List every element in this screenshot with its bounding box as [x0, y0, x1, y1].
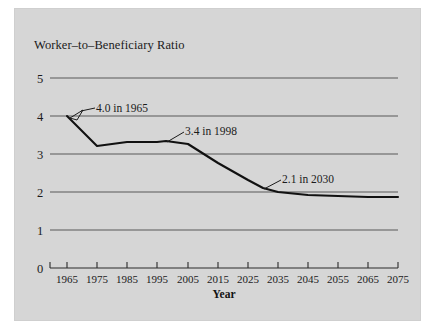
x-tick-label-2065: 2065 — [357, 273, 380, 285]
annotation-label-1998: 3.4 in 1998 — [185, 125, 237, 137]
annotation-leader-line-2030 — [264, 180, 281, 189]
y-tick-label-1: 1 — [37, 224, 43, 238]
x-tick-label-1985: 1985 — [116, 273, 139, 285]
worker-to-beneficiary-ratio-line-chart: 5 4 3 2 1 0 1965 1975 1985 19 — [0, 0, 435, 336]
y-tick-label-5: 5 — [37, 72, 43, 86]
y-tick-label-2: 2 — [37, 186, 43, 200]
x-tick-label-2035: 2035 — [267, 273, 290, 285]
x-tick-label-2055: 2055 — [327, 273, 350, 285]
annotation-3-4-in-1998: 3.4 in 1998 — [167, 125, 237, 142]
x-axis-tickmarks — [67, 262, 398, 268]
y-tick-label-4: 4 — [37, 110, 44, 124]
x-tick-label-2075: 2075 — [387, 273, 410, 285]
annotation-leader-line-1998 — [167, 132, 184, 142]
x-tick-label-1965: 1965 — [56, 273, 79, 285]
annotation-label-1965: 4.0 in 1965 — [96, 102, 148, 114]
annotation-label-2030: 2.1 in 2030 — [282, 173, 334, 185]
x-tick-label-1975: 1975 — [86, 273, 109, 285]
x-tick-label-2045: 2045 — [297, 273, 320, 285]
annotation-2-1-in-2030: 2.1 in 2030 — [264, 173, 334, 189]
x-axis-title: Year — [213, 288, 236, 300]
y-axis-tick-labels: 5 4 3 2 1 0 — [37, 72, 44, 276]
x-tick-label-2005: 2005 — [177, 273, 200, 285]
y-tick-label-0: 0 — [37, 262, 43, 276]
annotation-4-0-in-1965: 4.0 in 1965 — [70, 102, 148, 120]
x-tick-label-2025: 2025 — [237, 273, 260, 285]
x-axis-tick-labels: 1965 1975 1985 1995 2005 2015 2025 2035 … — [56, 273, 410, 285]
x-tick-label-2015: 2015 — [207, 273, 230, 285]
chart-page: Worker–to–Beneficiary Ratio 5 4 3 2 1 0 — [0, 0, 435, 336]
annotation-leader-line-1965 — [81, 108, 95, 111]
annotation-leader-1965 — [70, 110, 83, 120]
x-tick-label-1995: 1995 — [146, 273, 169, 285]
y-tick-label-3: 3 — [37, 148, 43, 162]
gridlines — [50, 78, 398, 230]
